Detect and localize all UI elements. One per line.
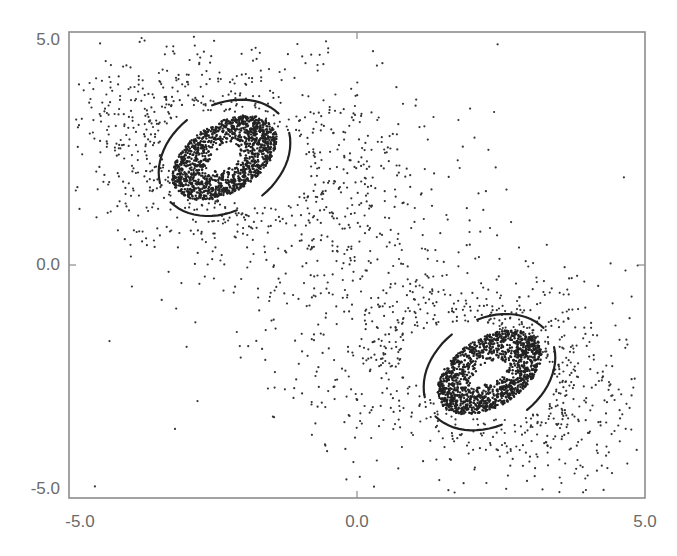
y-tick-label-top: 5.0	[10, 30, 60, 50]
data-points	[75, 36, 639, 494]
x-tick-label-middle: 0.0	[327, 512, 387, 532]
scatter-plot	[0, 0, 677, 556]
y-tick-label-middle: 0.0	[10, 255, 60, 275]
y-tick-label-bottom: -5.0	[10, 479, 60, 499]
x-tick-label-left: -5.0	[50, 512, 110, 532]
cluster-cores	[159, 100, 556, 431]
x-tick-label-right: 5.0	[615, 512, 675, 532]
